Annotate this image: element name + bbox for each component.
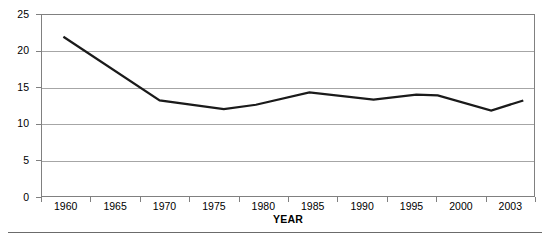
y-axis-title: POVERTY RATE (0, 0, 14, 42)
poverty-rate-line-chart: POVERTY RATE 2520151050 1960196519701975… (0, 0, 550, 239)
x-axis-tick-mark (189, 197, 190, 202)
x-axis-tick-mark (288, 197, 289, 202)
x-axis-tick-label: 2003 (486, 200, 535, 213)
y-axis-tick-label: 0 (5, 191, 29, 204)
footer-divider (8, 232, 542, 233)
x-axis-title: YEAR (41, 213, 535, 225)
x-axis-tick-label: 1975 (189, 200, 238, 213)
x-axis-tick-mark (486, 197, 487, 202)
x-axis-tick-label: 1985 (288, 200, 337, 213)
series-line-poverty-rate (42, 15, 534, 196)
y-axis-tick-label: 5 (5, 154, 29, 167)
x-axis-tick-mark (90, 197, 91, 202)
x-axis-tick-label: 1990 (337, 200, 386, 213)
x-axis-tick-mark (387, 197, 388, 202)
x-axis-tick-label: 1995 (387, 200, 436, 213)
x-axis-tick-mark (337, 197, 338, 202)
x-axis-tick-mark (535, 197, 536, 202)
x-axis-tick-mark (140, 197, 141, 202)
plot-area (41, 14, 535, 197)
x-axis-tick-label: 2000 (436, 200, 485, 213)
x-axis-tick-label: 1980 (239, 200, 288, 213)
x-axis-tick-mark (239, 197, 240, 202)
x-axis-tick-label: 1960 (41, 200, 90, 213)
x-axis-tick-mark (436, 197, 437, 202)
y-axis-tick-label: 10 (5, 117, 29, 130)
x-axis-tick-label: 1970 (140, 200, 189, 213)
series-polyline (63, 37, 523, 111)
x-axis-tick-label: 1965 (90, 200, 139, 213)
x-axis-tick-mark (41, 197, 42, 202)
y-axis-tick-label: 20 (5, 44, 29, 57)
y-axis-tick-label: 25 (5, 8, 29, 21)
y-axis-tick-label: 15 (5, 81, 29, 94)
